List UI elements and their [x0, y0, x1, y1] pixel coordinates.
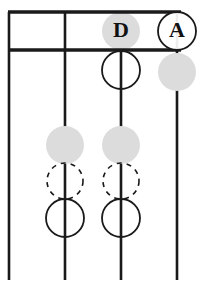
node-stem2-gray-disc — [46, 126, 84, 164]
diagram-svg: D A — [0, 0, 203, 291]
label-a: A — [169, 17, 185, 42]
diagram-canvas: D A — [0, 0, 203, 291]
node-stem3-gray-disc — [102, 126, 140, 164]
node-stem3-solid-top-outline — [102, 51, 140, 89]
stem-group — [9, 12, 177, 280]
label-group: D A — [113, 17, 185, 42]
node-stem4-gray-top-disc — [158, 53, 196, 91]
header-rule-box — [8, 12, 181, 50]
label-d: D — [113, 17, 129, 42]
